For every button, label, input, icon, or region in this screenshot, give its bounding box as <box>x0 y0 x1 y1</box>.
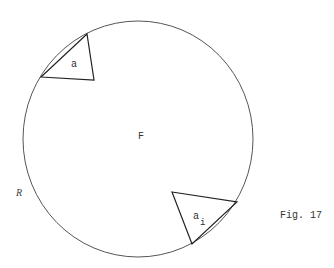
triangle-ai-subscript: i <box>200 218 205 228</box>
triangle-a-label: a <box>71 59 77 70</box>
figure-diagram: a a i F R Fig. 17 <box>0 0 334 268</box>
figure-caption: Fig. 17 <box>280 210 322 221</box>
region-label-f: F <box>138 131 144 142</box>
triangle-ai-label: a <box>193 211 199 222</box>
boundary-label-r: R <box>15 187 22 198</box>
triangle-a <box>41 34 94 80</box>
